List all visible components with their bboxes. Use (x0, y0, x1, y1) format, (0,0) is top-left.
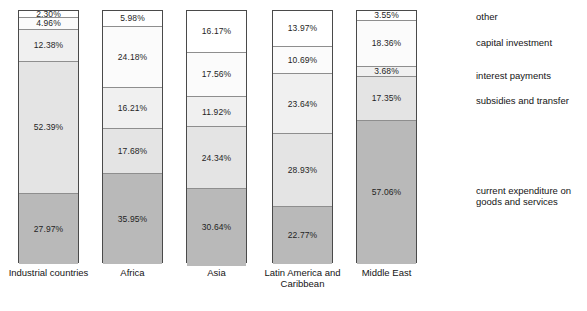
segment-value-label: 27.97% (34, 225, 63, 234)
segment-value-label: 18.36% (372, 39, 401, 48)
segment-value-label: 16.17% (202, 27, 231, 36)
bar-group: 3.55%18.36%3.68%17.35%57.06% (356, 10, 417, 263)
bar-segment: 17.56% (187, 52, 246, 96)
bar-segment: 13.97% (273, 11, 332, 46)
bar-group: 13.97%10.69%23.64%28.93%22.77% (272, 10, 333, 263)
legend-item: interest payments (476, 70, 551, 81)
segment-value-label: 3.55% (374, 11, 399, 20)
bar-segment: 12.38% (19, 29, 78, 60)
stacked-bar: 5.98%24.18%16.21%17.68%35.95% (102, 10, 163, 263)
segment-value-label: 35.95% (118, 215, 147, 224)
segment-value-label: 17.68% (118, 147, 147, 156)
legend-item: other (476, 11, 498, 22)
bar-segment: 30.64% (187, 188, 246, 266)
bar-segment: 27.97% (19, 193, 78, 264)
stacked-bar: 3.55%18.36%3.68%17.35%57.06% (356, 10, 417, 263)
bar-segment: 17.68% (103, 128, 162, 173)
bar-segment: 18.36% (357, 20, 416, 66)
plot-area: Industrial countries2.30%4.96%12.38%52.3… (0, 0, 587, 311)
segment-value-label: 5.98% (120, 14, 145, 23)
bar-segment: 23.64% (273, 73, 332, 133)
segment-value-label: 30.64% (202, 223, 231, 232)
bar-group: 16.17%17.56%11.92%24.34%30.64% (186, 10, 247, 263)
bar-group: 2.30%4.96%12.38%52.39%27.97% (18, 10, 79, 263)
bar-segment: 3.55% (357, 11, 416, 20)
segment-value-label: 3.68% (374, 67, 399, 75)
bar-segment: 11.92% (187, 96, 246, 126)
segment-value-label: 57.06% (372, 188, 401, 197)
bar-segment: 10.69% (273, 46, 332, 73)
bar-segment: 57.06% (357, 120, 416, 264)
segment-value-label: 13.97% (288, 24, 317, 33)
legend-item: capital investment (476, 37, 552, 48)
stacked-bar-chart: Industrial countries2.30%4.96%12.38%52.3… (0, 0, 587, 311)
segment-value-label: 24.34% (202, 154, 231, 163)
segment-value-label: 12.38% (34, 41, 63, 50)
segment-value-label: 17.35% (372, 94, 401, 103)
bar-segment: 5.98% (103, 11, 162, 26)
bar-segment: 16.21% (103, 87, 162, 128)
segment-value-label: 4.96% (36, 19, 61, 28)
bar-segment: 3.68% (357, 66, 416, 75)
bar-segment: 24.18% (103, 26, 162, 87)
segment-value-label: 52.39% (34, 123, 63, 132)
segment-value-label: 10.69% (288, 56, 317, 65)
bar-segment: 24.34% (187, 126, 246, 188)
stacked-bar: 2.30%4.96%12.38%52.39%27.97% (18, 10, 79, 263)
bar-group: 5.98%24.18%16.21%17.68%35.95% (102, 10, 163, 263)
segment-value-label: 16.21% (118, 104, 147, 113)
bar-segment: 4.96% (19, 17, 78, 30)
segment-value-label: 17.56% (202, 70, 231, 79)
bar-segment: 17.35% (357, 76, 416, 120)
bar-segment: 35.95% (103, 173, 162, 264)
bar-segment: 52.39% (19, 61, 78, 194)
segment-value-label: 11.92% (202, 108, 231, 117)
segment-value-label: 24.18% (118, 53, 147, 62)
stacked-bar: 16.17%17.56%11.92%24.34%30.64% (186, 10, 247, 263)
segment-value-label: 28.93% (288, 166, 317, 175)
stacked-bar: 13.97%10.69%23.64%28.93%22.77% (272, 10, 333, 263)
legend-item: current expenditure on goods and service… (476, 185, 571, 207)
bar-segment: 16.17% (187, 11, 246, 52)
x-axis-category-label: Middle East (326, 267, 447, 278)
segment-value-label: 23.64% (288, 100, 317, 109)
bar-segment: 22.77% (273, 206, 332, 264)
segment-value-label: 22.77% (288, 231, 317, 240)
legend-item: subsidies and transfer (476, 95, 569, 106)
bar-segment: 28.93% (273, 133, 332, 206)
